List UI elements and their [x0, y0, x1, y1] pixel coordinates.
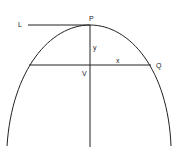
label-Q: Q [156, 62, 162, 70]
parabola-curve [7, 25, 171, 146]
label-L: L [18, 21, 22, 28]
label-P: P [89, 15, 94, 22]
label-V: V [82, 70, 87, 77]
label-x: x [116, 57, 120, 64]
label-y: y [93, 44, 97, 52]
parabola-diagram: L P y V x Q [0, 0, 184, 161]
